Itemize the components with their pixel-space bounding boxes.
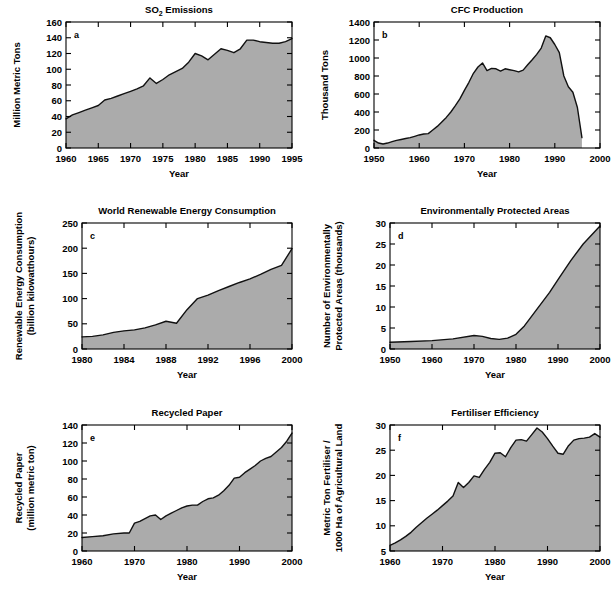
ytick-label: 100	[62, 293, 78, 304]
x-axis-label: Year	[485, 571, 505, 582]
xtick-label: 2000	[281, 354, 302, 365]
ytick-label: 0	[73, 546, 78, 557]
ytick-label: 140	[46, 32, 62, 43]
ytick-label: 40	[67, 510, 78, 521]
y-axis-label: 1000 Ha of Agricultural Land	[333, 424, 344, 553]
xtick-label: 1990	[229, 556, 250, 567]
ytick-label: 0	[57, 143, 62, 154]
y-axis-label: (million metric ton)	[25, 445, 36, 531]
panel-title: CFC Production	[451, 4, 523, 15]
xtick-label: 1960	[409, 153, 430, 164]
xtick-label: 1988	[155, 354, 176, 365]
ytick-label: 80	[67, 474, 78, 485]
ytick-label: 200	[354, 125, 370, 136]
xtick-label: 1990	[249, 153, 270, 164]
panel-letter-f: f	[398, 433, 402, 443]
x-axis-label: Year	[177, 571, 197, 582]
chart-panel-e: Recycled Paper19601970198019902000020406…	[0, 403, 308, 604]
ytick-label: 15	[375, 495, 386, 506]
xtick-label: 1950	[379, 354, 400, 365]
ytick-label: 60	[51, 95, 62, 106]
xtick-label: 1984	[113, 354, 135, 365]
xtick-label: 1970	[454, 153, 475, 164]
ytick-label: 25	[375, 445, 386, 456]
panel-letter-c: c	[90, 231, 95, 241]
ytick-label: 0	[365, 143, 370, 154]
ytick-label: 20	[375, 470, 386, 481]
ytick-label: 100	[46, 64, 62, 75]
xtick-label: 1990	[547, 354, 568, 365]
xtick-label: 2000	[589, 153, 610, 164]
y-axis-label: Metric Ton Fertiliser /	[321, 440, 332, 536]
xtick-label: 1970	[463, 354, 484, 365]
y-axis-label: Renewable Energy Consumption	[13, 212, 24, 361]
ytick-label: 80	[51, 80, 62, 91]
ytick-label: 0	[73, 344, 78, 355]
x-axis-label: Year	[485, 369, 505, 380]
xtick-label: 1996	[239, 354, 260, 365]
xtick-label: 1990	[537, 556, 558, 567]
panel-letter-b: b	[382, 30, 388, 40]
ytick-label: 40	[51, 111, 62, 122]
ytick-label: 800	[354, 71, 370, 82]
x-axis-label: Year	[169, 168, 189, 179]
ytick-label: 20	[375, 260, 386, 271]
xtick-label: 1970	[120, 153, 141, 164]
xtick-label: 1975	[152, 153, 174, 164]
ytick-label: 400	[354, 107, 370, 118]
xtick-label: 1980	[499, 153, 520, 164]
xtick-label: 1980	[484, 556, 505, 567]
xtick-label: 1960	[55, 153, 76, 164]
panel-title: Fertiliser Efficiency	[451, 407, 539, 418]
panel-title: SO2 Emissions	[145, 4, 213, 17]
xtick-label: 1960	[379, 556, 400, 567]
xtick-label: 1965	[88, 153, 110, 164]
xtick-label: 1970	[432, 556, 453, 567]
xtick-label: 1990	[544, 153, 565, 164]
x-axis-label: Year	[177, 369, 197, 380]
ytick-label: 50	[67, 318, 78, 329]
panel-letter-a: a	[74, 30, 80, 40]
series-area-c	[82, 249, 292, 349]
ytick-label: 1400	[349, 17, 370, 28]
xtick-label: 1985	[217, 153, 239, 164]
ytick-label: 10	[375, 302, 386, 313]
ytick-label: 600	[354, 89, 370, 100]
chart-panel-c: World Renewable Energy Consumption198019…	[0, 201, 308, 402]
ytick-label: 20	[51, 127, 62, 138]
xtick-label: 1980	[505, 354, 526, 365]
y-axis-label: (billion kilowatthours)	[25, 237, 36, 336]
y-axis-label: Thousand Tons	[319, 50, 330, 120]
ytick-label: 250	[62, 218, 78, 229]
ytick-label: 10	[375, 520, 386, 531]
ytick-label: 15	[375, 281, 386, 292]
xtick-label: 1970	[124, 556, 145, 567]
y-axis-label: Million Metric Tons	[11, 42, 22, 127]
ytick-label: 120	[62, 438, 78, 449]
ytick-label: 1200	[349, 35, 370, 46]
chart-panel-a: SO2 Emissions196019651970197519801985199…	[0, 0, 308, 201]
ytick-label: 160	[46, 17, 62, 28]
chart-panel-d: Environmentally Protected Areas195019601…	[308, 201, 616, 402]
series-area-a	[66, 39, 292, 148]
xtick-label: 1992	[197, 354, 218, 365]
xtick-label: 1980	[176, 556, 197, 567]
y-axis-label: Number of Environmentally	[321, 223, 332, 348]
ytick-label: 5	[381, 546, 387, 557]
chart-panel-b: CFC Production19501960197019801990200002…	[308, 0, 616, 201]
y-axis-label: Protected Areas (thousands)	[333, 221, 344, 351]
y-axis-label: Recycled Paper	[13, 452, 24, 523]
ytick-label: 5	[381, 323, 387, 334]
ytick-label: 150	[62, 268, 78, 279]
ytick-label: 25	[375, 239, 386, 250]
xtick-label: 1980	[185, 153, 206, 164]
ytick-label: 30	[375, 420, 386, 431]
xtick-label: 1980	[71, 354, 92, 365]
panel-title: World Renewable Energy Consumption	[98, 205, 276, 216]
panel-letter-d: d	[398, 231, 404, 241]
xtick-label: 2000	[589, 354, 610, 365]
panel-title: Environmentally Protected Areas	[420, 205, 569, 216]
xtick-label: 1960	[71, 556, 92, 567]
ytick-label: 140	[62, 420, 78, 431]
ytick-label: 120	[46, 48, 62, 59]
